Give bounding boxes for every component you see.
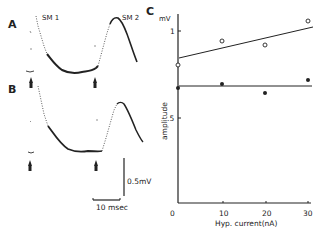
stimulus-arrow-icon [29,77,33,88]
y-unit-label: mV [159,15,171,23]
sm2-label: SM 2 [122,14,139,22]
trace-b [28,86,143,153]
xtick-20: 20 [262,209,272,218]
stimulus-arrow-icon [93,77,97,88]
stimulus-arrow-icon [28,160,32,171]
y-axis-label: amplitude [160,102,169,140]
panel-b-label: B [8,83,16,96]
time-scale-label: 10 msec [96,203,128,212]
ytick-1: 1 [170,27,175,36]
panel-c-label: C [146,5,154,18]
scale-bars [93,158,124,200]
voltage-scale-label: 0.5mV [127,177,152,186]
sm1-label: SM 1 [42,14,59,22]
xtick-10: 10 [219,209,229,218]
trace-a [26,16,137,73]
panel-a-label: A [8,18,17,31]
stimulus-arrow-icon [94,160,98,171]
xtick-0: 0 [170,209,175,218]
figure: A SM 1 SM 2 B 0.5mV 10 msec C m [0,0,321,231]
x-axis-label: Hyp. current(nA) [215,219,277,228]
fit-line-open [179,27,313,58]
xtick-30: 30 [303,209,313,218]
